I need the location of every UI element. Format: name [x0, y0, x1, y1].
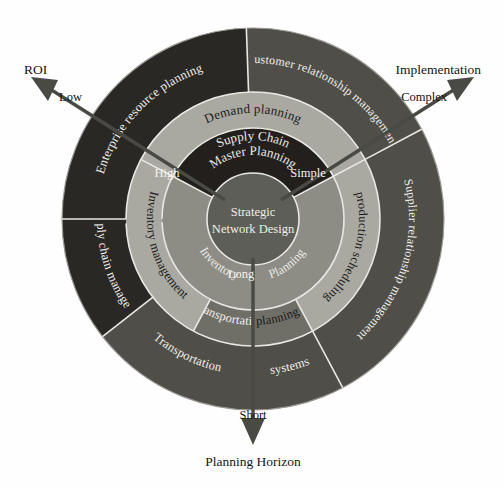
axis-planning-horizon-name: Planning Horizon: [205, 454, 301, 469]
axis-planning-horizon-tip-value: Short: [239, 408, 267, 422]
axis-roi-name: ROI: [24, 62, 48, 77]
axis-implementation-name: Implementation: [396, 62, 482, 77]
axis-roi-inner-value: High: [155, 166, 181, 180]
core-label-line1: Strategic: [231, 205, 276, 219]
supply-chain-wheel: Strategic Network Design Supply Chain Ma…: [0, 0, 504, 488]
axis-implementation-inner-value: Simple: [290, 166, 326, 180]
axis-roi-tip-value: Low: [59, 90, 82, 104]
core-strategic-network-design[interactable]: Strategic Network Design: [207, 173, 299, 265]
diagram-canvas: Strategic Network Design Supply Chain Ma…: [0, 0, 504, 488]
axis-planning-horizon-inner-value: Long: [228, 267, 255, 281]
axis-implementation-tip-value: Complex: [401, 90, 448, 104]
core-label-line2: Network Design: [212, 222, 295, 236]
